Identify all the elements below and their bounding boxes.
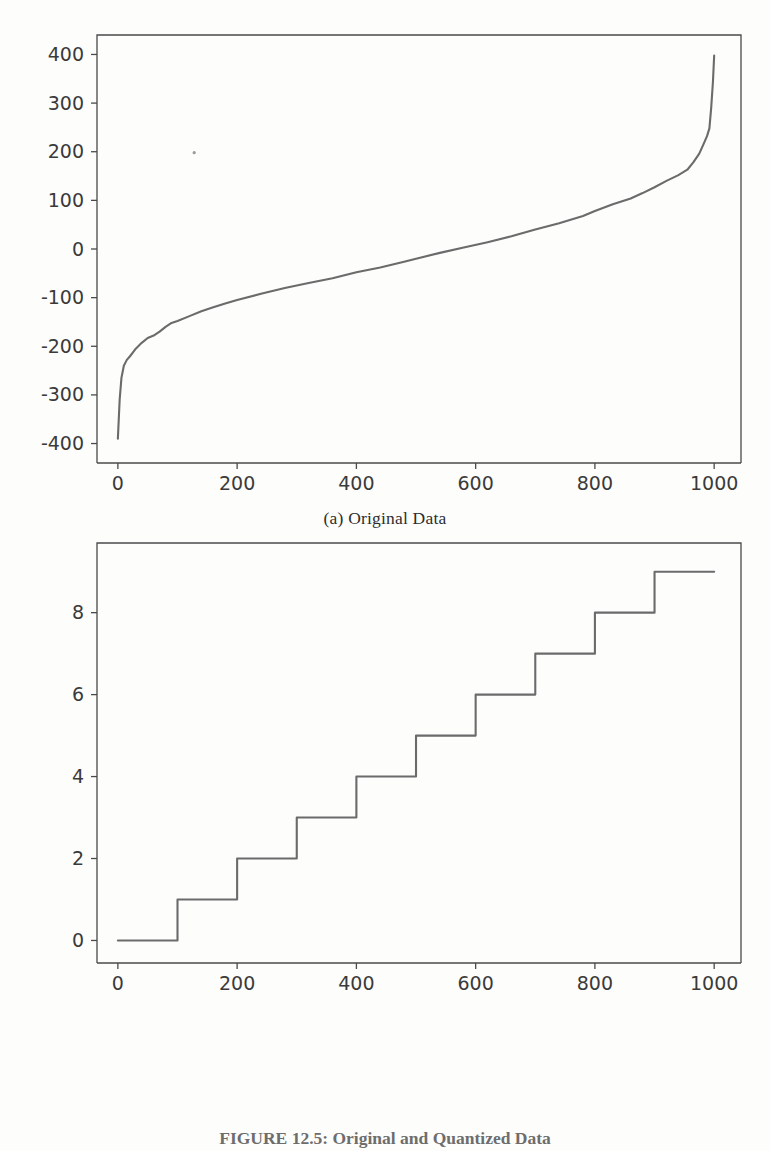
original-x-ticklabel: 200 <box>219 472 255 494</box>
original-plot-frame <box>97 35 741 463</box>
quantized-x-ticklabel: 0 <box>112 972 124 994</box>
quantized-y-ticklabel: 0 <box>72 929 84 951</box>
chart-original-data: -400-300-200-100010020030040002004006008… <box>0 0 770 520</box>
original-scan-speck <box>193 151 196 154</box>
original-y-ticklabel: 300 <box>48 92 84 114</box>
original-data-line <box>118 55 714 438</box>
quantized-x-ticklabel: 1000 <box>690 972 738 994</box>
original-y-ticklabel: 200 <box>48 140 84 162</box>
quantized-x-ticklabel: 600 <box>458 972 494 994</box>
original-y-ticklabel: 0 <box>72 238 84 260</box>
quantized-y-ticklabel: 4 <box>72 765 84 787</box>
original-y-ticklabel: -100 <box>41 286 84 308</box>
original-x-ticklabel: 600 <box>458 472 494 494</box>
original-x-ticklabel: 800 <box>577 472 613 494</box>
original-y-ticklabel: 100 <box>48 189 84 211</box>
quantized-data-line <box>118 572 714 941</box>
original-x-ticklabel: 400 <box>338 472 374 494</box>
plot-area-b: 0246802004006008001000 <box>0 520 770 1040</box>
quantized-y-ticklabel: 6 <box>72 683 84 705</box>
original-y-ticklabel: -200 <box>41 335 84 357</box>
chart-quantized-data: 0246802004006008001000 <box>0 520 770 1040</box>
quantized-x-ticklabel: 200 <box>219 972 255 994</box>
quantized-y-ticklabel: 2 <box>72 847 84 869</box>
quantized-x-ticklabel: 400 <box>338 972 374 994</box>
original-y-ticklabel: 400 <box>48 43 84 65</box>
figure-caption: FIGURE 12.5: Original and Quantized Data <box>0 1128 770 1149</box>
quantized-x-ticklabel: 800 <box>577 972 613 994</box>
original-x-ticklabel: 0 <box>112 472 124 494</box>
original-y-ticklabel: -400 <box>41 432 84 454</box>
quantized-y-ticklabel: 8 <box>72 601 84 623</box>
plot-area-a: -400-300-200-100010020030040002004006008… <box>0 0 770 520</box>
original-x-ticklabel: 1000 <box>690 472 738 494</box>
subplot-quantized-data: 0246802004006008001000 (b) Quantized Dat… <box>0 520 770 1040</box>
original-y-ticklabel: -300 <box>41 383 84 405</box>
subplot-original-data: -400-300-200-100010020030040002004006008… <box>0 0 770 520</box>
figure-page: -400-300-200-100010020030040002004006008… <box>0 0 770 1151</box>
